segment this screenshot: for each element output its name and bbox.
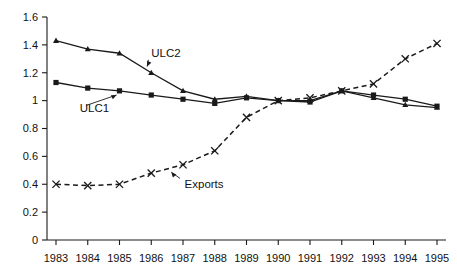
data-point [53, 38, 59, 43]
series-group [52, 38, 440, 190]
data-point [149, 92, 154, 97]
annotation-exports: Exports [171, 172, 224, 190]
x-tick-label: 1991 [298, 252, 322, 264]
data-point [148, 70, 154, 75]
series-exports [52, 40, 440, 189]
annotation-label: ULC1 [80, 102, 109, 114]
x-tick-group: 1983198419851986198719881989199019911992… [44, 240, 449, 264]
series-line-exports [56, 43, 437, 185]
x-axis: 1983198419851986198719881989199019911992… [44, 240, 449, 264]
x-tick-label: 1994 [393, 252, 417, 264]
y-tick-label: 0 [32, 234, 38, 246]
data-point [212, 101, 217, 106]
line-chart: 00.20.40.60.811.21.41.6 1983198419851986… [0, 0, 457, 271]
annotation-arrowhead [111, 95, 117, 99]
chart-container: 00.20.40.60.811.21.41.6 1983198419851986… [0, 0, 457, 271]
x-tick-label: 1989 [234, 252, 258, 264]
x-tick-label: 1990 [266, 252, 290, 264]
x-tick-label: 1988 [203, 252, 227, 264]
x-tick-label: 1995 [425, 252, 449, 264]
annotation-ulc2: ULC2 [147, 47, 181, 66]
x-tick-label: 1987 [171, 252, 195, 264]
y-tick-label: 1.6 [23, 11, 38, 23]
data-point [180, 97, 185, 102]
annotation-group: ULC2ULC1Exports [80, 47, 224, 189]
x-tick-label: 1985 [107, 252, 131, 264]
x-tick-label: 1986 [139, 252, 163, 264]
annotation-label: ULC2 [151, 47, 180, 59]
y-tick-label: 0.4 [23, 178, 38, 190]
x-tick-label: 1993 [361, 252, 385, 264]
annotation-ulc1: ULC1 [80, 95, 117, 114]
data-point [85, 85, 90, 90]
x-tick-label: 1992 [330, 252, 354, 264]
y-axis: 00.20.40.60.811.21.41.6 [23, 11, 47, 246]
annotation-label: Exports [185, 178, 224, 190]
x-tick-label: 1983 [44, 252, 68, 264]
annotation-arrowhead [171, 172, 176, 177]
data-point [53, 80, 58, 85]
y-tick-label: 0.2 [23, 206, 38, 218]
data-point [117, 88, 122, 93]
y-tick-label: 1.4 [23, 39, 38, 51]
y-tick-group: 00.20.40.60.811.21.41.6 [23, 11, 47, 246]
y-tick-label: 0.8 [23, 122, 38, 134]
x-tick-label: 1984 [76, 252, 100, 264]
data-point [403, 97, 408, 102]
y-tick-label: 0.6 [23, 150, 38, 162]
y-tick-label: 1.2 [23, 67, 38, 79]
y-tick-label: 1 [32, 94, 38, 106]
annotation-arrowhead [147, 61, 151, 67]
